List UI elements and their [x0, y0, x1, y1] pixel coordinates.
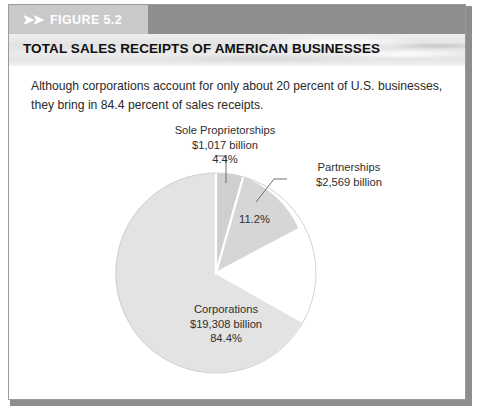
label-sole-proprietorships-percent: 4.4%	[155, 152, 295, 167]
pie-slice-corporations	[114, 172, 303, 374]
label-partnerships: Partnerships $2,569 billion	[289, 160, 409, 189]
leader-line-partnerships	[256, 179, 287, 202]
figure-number-label: FIGURE 5.2	[50, 13, 122, 27]
leader-line-sole-proprietorships	[215, 156, 226, 183]
figure-title-bar: TOTAL SALES RECEIPTS OF AMERICAN BUSINES…	[9, 34, 465, 66]
label-partnerships-name: Partnerships	[289, 160, 409, 175]
label-partnerships-value: $2,569 billion	[289, 175, 409, 190]
label-partnerships-percent: 11.2%	[239, 212, 270, 227]
pie-slice-sole-proprietorships	[216, 172, 244, 273]
figure-caption: Although corporations account for only a…	[31, 77, 443, 115]
figure-title: TOTAL SALES RECEIPTS OF AMERICAN BUSINES…	[23, 41, 380, 56]
label-sole-proprietorships-name: Sole Proprietorships	[155, 123, 295, 138]
label-sole-proprietorships-value: $1,017 billion	[155, 138, 295, 153]
figure-frame: ➤➤ FIGURE 5.2 TOTAL SALES RECEIPTS OF AM…	[8, 4, 466, 400]
double-chevron-right-icon: ➤➤	[23, 13, 43, 26]
figure-container: ➤➤ FIGURE 5.2 TOTAL SALES RECEIPTS OF AM…	[0, 0, 477, 414]
label-corporations-percent: 84.4%	[156, 331, 296, 346]
label-corporations-name: Corporations	[156, 302, 296, 317]
label-corporations-value: $19,308 billion	[156, 317, 296, 332]
pie-slice-partnerships	[216, 176, 300, 273]
label-sole-proprietorships: Sole Proprietorships $1,017 billion 4.4%	[155, 123, 295, 167]
label-corporations: Corporations $19,308 billion 84.4%	[156, 302, 296, 346]
figure-banner: ➤➤ FIGURE 5.2	[9, 5, 465, 34]
figure-number-tab: ➤➤ FIGURE 5.2	[9, 5, 148, 34]
pie-outline	[116, 173, 316, 373]
